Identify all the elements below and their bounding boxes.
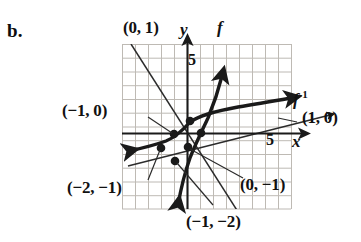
label-curve-f-inverse: f-1 (293, 88, 308, 110)
label-tick-y-5: 5 (188, 51, 196, 69)
reference-diagonals (131, 44, 240, 215)
leader-0-neg1 (190, 149, 243, 178)
label-x-axis: x (292, 132, 301, 152)
label-curve-f: f (217, 18, 223, 38)
figure-panel: b. (0, 0, 361, 242)
label-point-0-1: (0, 1) (123, 18, 159, 38)
label-point-neg1-0: (−1, 0) (62, 101, 107, 121)
leader-1-0 (278, 118, 297, 122)
label-y-axis: y (180, 20, 188, 40)
diagonal-descending (131, 44, 240, 215)
label-tick-x-5: 5 (266, 131, 274, 149)
label-point-0-neg1: (0, −1) (240, 175, 285, 195)
leader-neg1-0 (148, 117, 172, 133)
point-0-1 (186, 117, 195, 126)
label-curve-f-inverse-exponent: -1 (299, 88, 308, 100)
label-point-1-0: (1, 0) (302, 108, 338, 128)
point-neg1-0 (170, 130, 179, 139)
point-1-0 (197, 129, 206, 138)
label-point-neg2-neg1: (−2, −1) (67, 178, 122, 198)
point-neg2-neg1 (157, 144, 166, 153)
label-point-neg1-neg2: (−1, −2) (186, 212, 241, 232)
